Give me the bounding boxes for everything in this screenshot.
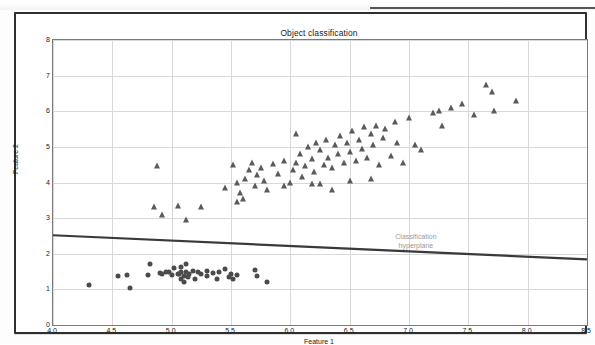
data-point-triangle [356, 136, 362, 142]
y-tick-label: 4 [40, 178, 50, 185]
data-point-triangle [242, 175, 248, 181]
data-point-triangle [392, 118, 398, 124]
data-point-triangle [471, 111, 477, 117]
data-point-triangle [249, 159, 255, 165]
data-point-circle [217, 270, 222, 275]
data-point-triangle [317, 181, 323, 187]
data-point-triangle [376, 161, 382, 167]
data-point-circle [205, 268, 210, 273]
gridline-horizontal [53, 325, 587, 326]
data-point-triangle [347, 149, 353, 155]
data-point-circle [181, 280, 186, 285]
y-tick-label: 3 [40, 214, 50, 221]
hyperplane-annotation-label: Classification hyperplane [385, 232, 447, 250]
data-point-triangle [252, 182, 258, 188]
data-point-triangle [380, 134, 386, 140]
data-point-circle [229, 271, 234, 276]
data-point-circle [199, 271, 204, 276]
gridline-horizontal [53, 289, 587, 290]
data-point-triangle [281, 182, 287, 188]
data-point-triangle [459, 101, 465, 107]
data-point-triangle [234, 179, 240, 185]
data-point-triangle [230, 161, 236, 167]
data-point-triangle [361, 124, 367, 130]
data-point-triangle [299, 174, 305, 180]
gridline-horizontal [53, 218, 587, 219]
data-point-triangle [388, 152, 394, 158]
data-point-triangle [240, 195, 246, 201]
data-point-triangle [290, 166, 296, 172]
y-tick-label: 2 [40, 249, 50, 256]
y-tick-label: 7 [40, 71, 50, 78]
data-point-triangle [382, 125, 388, 131]
data-point-triangle [261, 177, 267, 183]
data-point-triangle [335, 150, 341, 156]
y-tick-label: 1 [40, 285, 50, 292]
data-point-circle [148, 261, 153, 266]
data-point-circle [186, 275, 191, 280]
data-point-triangle [353, 158, 359, 164]
gridline-horizontal [53, 111, 587, 112]
y-tick-label: 6 [40, 107, 50, 114]
data-point-triangle [325, 154, 331, 160]
data-point-circle [167, 270, 172, 275]
data-point-triangle [418, 147, 424, 153]
data-point-circle [211, 270, 216, 275]
data-point-triangle [309, 181, 315, 187]
data-point-triangle [370, 141, 376, 147]
data-point-circle [145, 273, 150, 278]
data-point-triangle [448, 104, 454, 110]
page-top-rule [370, 7, 595, 9]
data-point-triangle [341, 159, 347, 165]
data-point-triangle [287, 179, 293, 185]
data-point-triangle [222, 184, 228, 190]
data-point-triangle [483, 81, 489, 87]
data-point-triangle [293, 131, 299, 137]
data-point-triangle [406, 115, 412, 121]
data-point-triangle [359, 145, 365, 151]
data-point-circle [255, 273, 260, 278]
gridline-horizontal [53, 40, 587, 41]
gridline-vertical [587, 40, 588, 325]
data-point-circle [234, 273, 239, 278]
data-point-circle [193, 276, 198, 281]
data-point-triangle [246, 166, 252, 172]
data-point-triangle [332, 141, 338, 147]
data-point-triangle [513, 97, 519, 103]
data-point-circle [86, 283, 91, 288]
data-point-triangle [297, 150, 303, 156]
data-point-triangle [293, 159, 299, 165]
data-point-triangle [309, 156, 315, 162]
data-point-triangle [159, 211, 165, 217]
data-point-triangle [275, 170, 281, 176]
x-tick-label: 6.5 [344, 327, 354, 334]
data-point-triangle [175, 202, 181, 208]
data-point-circle [183, 261, 188, 266]
data-point-triangle [313, 140, 319, 146]
data-point-circle [116, 274, 121, 279]
x-tick-label: 5.0 [166, 327, 176, 334]
x-tick-label: 5.5 [225, 327, 235, 334]
data-point-triangle [258, 165, 264, 171]
plot-area: Classification hyperplane [52, 39, 588, 326]
data-point-triangle [337, 133, 343, 139]
figure-frame: Object classification Feature 2 Feature … [14, 12, 587, 334]
data-point-circle [264, 280, 269, 285]
data-point-circle [205, 273, 210, 278]
data-point-triangle [364, 154, 370, 160]
data-point-triangle [323, 136, 329, 142]
data-point-triangle [400, 159, 406, 165]
data-point-triangle [302, 163, 308, 169]
y-axis-label: Feature 2 [12, 144, 19, 174]
data-point-circle [128, 285, 133, 290]
data-point-circle [176, 271, 181, 276]
data-point-triangle [349, 127, 355, 133]
data-point-triangle [270, 160, 276, 166]
y-tick-label: 8 [40, 36, 50, 43]
x-axis-label: Feature 1 [52, 338, 586, 345]
x-tick-label: 8.0 [522, 327, 532, 334]
data-point-triangle [491, 108, 497, 114]
data-point-triangle [321, 161, 327, 167]
data-point-triangle [368, 175, 374, 181]
